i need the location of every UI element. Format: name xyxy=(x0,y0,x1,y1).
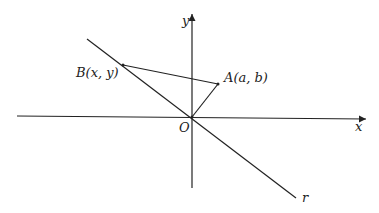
origin-label: O xyxy=(179,120,190,135)
coordinate-diagram: y x O B(x, y) A(a, b) r xyxy=(0,0,379,213)
y-axis-label: y xyxy=(181,13,190,28)
point-b-label: B(x, y) xyxy=(75,65,119,80)
segment-ao xyxy=(192,84,218,117)
point-a-label: A(a, b) xyxy=(223,70,268,85)
line-r-label: r xyxy=(302,190,309,205)
x-axis-label: x xyxy=(355,119,363,134)
point-b xyxy=(122,64,125,67)
point-a xyxy=(217,83,220,86)
segment-ba xyxy=(123,65,218,84)
origin-point xyxy=(191,116,194,119)
